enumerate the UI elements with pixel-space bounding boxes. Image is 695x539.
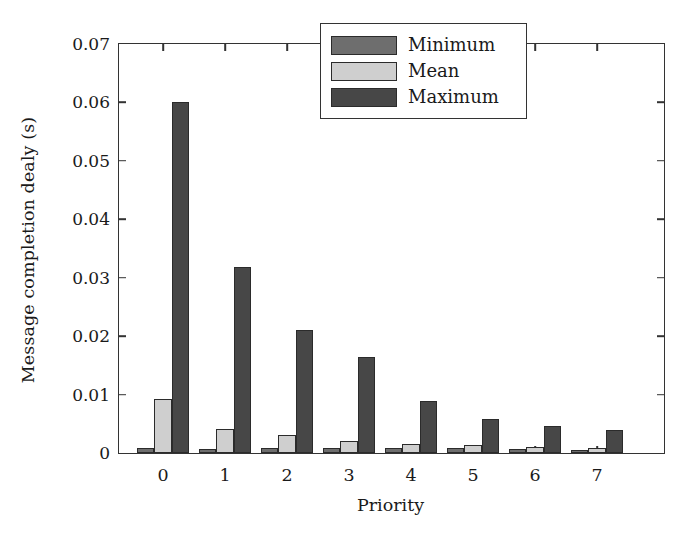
bar-minimum-priority-5 bbox=[447, 448, 465, 453]
bar-maximum-priority-1 bbox=[234, 267, 252, 453]
y-axis-tick-label: 0.03 bbox=[72, 268, 110, 288]
legend-item-mean: Mean bbox=[331, 58, 514, 84]
legend-label: Maximum bbox=[408, 88, 499, 106]
y-axis-tick-mark bbox=[657, 394, 664, 396]
x-axis-tick-label: 6 bbox=[529, 465, 540, 485]
y-axis-tick-mark bbox=[119, 218, 126, 220]
x-axis-tick-mark bbox=[162, 44, 164, 51]
y-axis-tick-label: 0.02 bbox=[72, 326, 110, 346]
y-axis-tick-label: 0.01 bbox=[72, 385, 110, 405]
x-axis-tick-label: 1 bbox=[219, 465, 230, 485]
y-axis-tick-label: 0.07 bbox=[72, 34, 110, 54]
bar-mean-priority-2 bbox=[278, 435, 296, 453]
bar-mean-priority-3 bbox=[340, 441, 358, 453]
bar-mean-priority-4 bbox=[402, 444, 420, 453]
legend-item-minimum: Minimum bbox=[331, 32, 514, 58]
bar-minimum-priority-1 bbox=[199, 449, 217, 453]
bar-maximum-priority-0 bbox=[172, 102, 190, 453]
x-axis-tick-mark bbox=[596, 44, 598, 51]
x-axis-tick-label: 2 bbox=[281, 465, 292, 485]
y-axis-tick-mark bbox=[657, 160, 664, 162]
y-axis-tick-mark bbox=[657, 277, 664, 279]
y-axis-tick-mark bbox=[657, 102, 664, 104]
x-axis-tick-label: 3 bbox=[343, 465, 354, 485]
x-axis-tick-label: 7 bbox=[591, 465, 602, 485]
x-axis-tick-label: 0 bbox=[157, 465, 168, 485]
legend-label: Minimum bbox=[408, 36, 495, 54]
bar-minimum-priority-0 bbox=[137, 448, 155, 453]
y-axis-tick-mark bbox=[657, 218, 664, 220]
x-axis-label: Priority bbox=[118, 495, 663, 515]
bar-mean-priority-0 bbox=[154, 399, 172, 453]
bar-mean-priority-6 bbox=[526, 447, 544, 453]
bar-mean-priority-5 bbox=[464, 445, 482, 453]
x-axis-tick-mark bbox=[286, 44, 288, 51]
legend-swatch-minimum bbox=[331, 36, 397, 55]
bar-maximum-priority-3 bbox=[358, 357, 376, 453]
bar-mean-priority-7 bbox=[588, 448, 606, 453]
bar-maximum-priority-7 bbox=[606, 430, 624, 453]
y-axis-tick-label: 0 bbox=[99, 443, 110, 463]
bar-maximum-priority-4 bbox=[420, 401, 438, 453]
x-axis-tick-mark bbox=[224, 44, 226, 51]
x-axis-tick-mark bbox=[534, 44, 536, 51]
y-axis-tick-mark bbox=[119, 335, 126, 337]
legend-swatch-maximum bbox=[331, 88, 397, 107]
bar-maximum-priority-5 bbox=[482, 419, 500, 453]
bar-minimum-priority-6 bbox=[509, 449, 527, 453]
bar-maximum-priority-2 bbox=[296, 330, 314, 453]
bar-minimum-priority-4 bbox=[385, 448, 403, 453]
y-axis-tick-mark bbox=[119, 277, 126, 279]
x-axis-tick-label: 5 bbox=[467, 465, 478, 485]
bar-mean-priority-1 bbox=[216, 429, 234, 453]
chart-figure: Message completion dealy (s) 00.010.020.… bbox=[0, 0, 695, 539]
y-axis-label: Message completion dealy (s) bbox=[18, 117, 38, 383]
y-axis-tick-mark bbox=[119, 394, 126, 396]
y-axis-tick-label: 0.06 bbox=[72, 92, 110, 112]
x-axis-tick-label: 4 bbox=[405, 465, 416, 485]
bar-minimum-priority-3 bbox=[323, 448, 341, 453]
chart-legend: MinimumMeanMaximum bbox=[320, 23, 527, 119]
y-axis-tick-label: 0.05 bbox=[72, 151, 110, 171]
y-axis-tick-mark bbox=[657, 335, 664, 337]
legend-item-maximum: Maximum bbox=[331, 84, 514, 110]
legend-swatch-mean bbox=[331, 62, 397, 81]
bar-minimum-priority-7 bbox=[571, 450, 589, 453]
y-axis-tick-mark bbox=[119, 160, 126, 162]
legend-label: Mean bbox=[408, 62, 459, 80]
y-axis-tick-label: 0.04 bbox=[72, 209, 110, 229]
bar-maximum-priority-6 bbox=[544, 426, 562, 453]
y-axis-tick-mark bbox=[119, 102, 126, 104]
y-axis-label-container: Message completion dealy (s) bbox=[0, 0, 56, 500]
bar-minimum-priority-2 bbox=[261, 448, 279, 453]
